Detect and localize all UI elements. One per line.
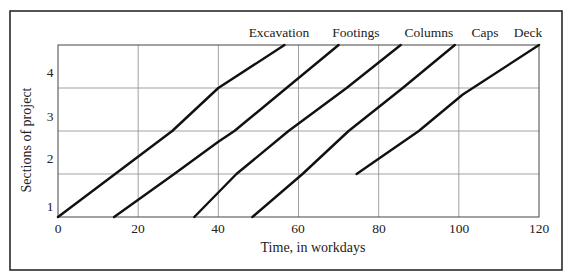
series-label-caps: Caps [472,25,499,40]
y-axis-label: Sections of project [19,87,34,192]
x-tick-120: 120 [529,221,550,236]
x-tick-labels: 0 20 40 60 80 100 120 [55,221,550,236]
y-tick-labels: 1 2 3 4 [47,65,54,214]
x-tick-60: 60 [291,221,305,236]
x-tick-80: 80 [372,221,386,236]
y-tick-1: 1 [47,199,54,214]
y-tick-3: 3 [47,109,54,124]
series-label-excavation: Excavation [249,25,310,40]
linear-schedule-chart: 0 20 40 60 80 100 120 1 2 3 4 Time, in w… [0,0,572,276]
x-tick-100: 100 [449,221,470,236]
series-label-deck: Deck [514,25,543,40]
outer-frame [10,11,562,270]
y-tick-2: 2 [47,151,54,166]
grid [58,45,539,217]
x-tick-0: 0 [55,221,62,236]
x-axis-label: Time, in workdays [261,240,366,255]
series-label-columns: Columns [405,25,454,40]
y-tick-4: 4 [47,65,54,80]
series-line-deck [357,45,539,174]
series-label-footings: Footings [332,25,379,40]
x-tick-40: 40 [211,221,225,236]
x-tick-20: 20 [131,221,145,236]
series-labels: Excavation Footings Columns Caps Deck [249,25,543,40]
